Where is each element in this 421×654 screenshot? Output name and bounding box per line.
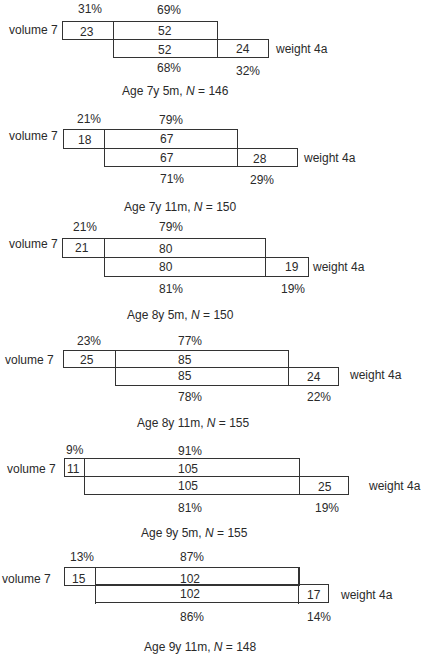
panel-age-9y5m: 9% 91% volume 7 11 105 105 25 weight 4a … xyxy=(0,425,421,530)
weight-right-value: 24 xyxy=(236,42,249,56)
label-volume: volume 7 xyxy=(7,462,56,476)
label-weight: weight 4a xyxy=(313,260,364,274)
caption: Age 7y 11m, N = 150 xyxy=(124,200,236,214)
volume-mid-value: 67 xyxy=(160,132,173,146)
bot-pct-right: 14% xyxy=(307,610,331,624)
top-pct-right: 69% xyxy=(157,3,181,17)
top-pct-left: 21% xyxy=(77,112,101,126)
volume-left-value: 15 xyxy=(72,572,85,586)
label-weight: weight 4a xyxy=(341,588,392,602)
bot-pct-left: 78% xyxy=(178,390,202,404)
divider xyxy=(298,567,299,604)
bot-pct-right: 29% xyxy=(250,173,274,187)
label-volume: volume 7 xyxy=(2,572,51,586)
weight-right-value: 19 xyxy=(285,260,298,274)
weight-mid-value: 102 xyxy=(180,587,200,601)
panel-age-7y5m: 31% 69% volume 7 23 52 52 24 weight 4a 6… xyxy=(0,0,421,100)
weight-bar xyxy=(115,367,339,386)
top-pct-left: 13% xyxy=(70,550,94,564)
top-pct-left: 21% xyxy=(73,220,97,234)
bot-pct-left: 81% xyxy=(178,501,202,515)
divider xyxy=(299,458,300,495)
weight-mid-value: 67 xyxy=(160,151,173,165)
bot-pct-right: 22% xyxy=(307,390,331,404)
top-pct-right: 79% xyxy=(159,113,183,127)
top-pct-left: 9% xyxy=(66,443,83,457)
weight-mid-value: 85 xyxy=(178,369,191,383)
label-weight: weight 4a xyxy=(276,42,327,56)
top-pct-left: 23% xyxy=(77,334,101,348)
caption: Age 9y 11m, N = 148 xyxy=(144,640,256,654)
label-weight: weight 4a xyxy=(304,151,355,165)
label-weight: weight 4a xyxy=(350,368,401,382)
divider xyxy=(237,129,238,167)
bot-pct-right: 32% xyxy=(236,64,260,78)
volume-left-value: 18 xyxy=(78,133,91,147)
bot-pct-left: 71% xyxy=(160,172,184,186)
top-pct-right: 91% xyxy=(178,444,202,458)
top-pct-right: 77% xyxy=(178,334,202,348)
bot-pct-right: 19% xyxy=(315,501,339,515)
volume-mid-value: 80 xyxy=(159,242,172,256)
volume-mid-value: 105 xyxy=(178,462,198,476)
panel-age-7y11m: 21% 79% volume 7 18 67 67 28 weight 4a 7… xyxy=(0,105,421,215)
weight-mid-value: 80 xyxy=(159,260,172,274)
weight-bar xyxy=(104,257,309,277)
bot-pct-left: 68% xyxy=(157,61,181,75)
volume-left-value: 23 xyxy=(80,25,93,39)
volume-mid-value: 102 xyxy=(180,572,200,586)
divider xyxy=(288,350,289,386)
weight-right-value: 28 xyxy=(253,152,266,166)
label-volume: volume 7 xyxy=(5,353,54,367)
volume-bar xyxy=(63,350,289,368)
weight-mid-value: 52 xyxy=(158,43,171,57)
top-pct-left: 31% xyxy=(78,2,102,16)
panel-age-9y11m: 13% 87% volume 7 15 102 102 17 weight 4a… xyxy=(0,530,421,646)
weight-right-value: 25 xyxy=(318,480,331,494)
weight-bar xyxy=(84,476,349,495)
volume-mid-value: 52 xyxy=(158,24,171,38)
label-volume: volume 7 xyxy=(9,23,58,37)
weight-right-value: 17 xyxy=(307,588,320,602)
label-volume: volume 7 xyxy=(9,237,58,251)
volume-left-value: 25 xyxy=(80,353,93,367)
label-weight: weight 4a xyxy=(369,479,420,493)
bot-pct-left: 81% xyxy=(159,282,183,296)
weight-bar xyxy=(104,148,298,167)
panel-age-8y11m: 23% 77% volume 7 25 85 85 24 weight 4a 7… xyxy=(0,320,421,425)
weight-mid-value: 105 xyxy=(178,479,198,493)
volume-mid-value: 85 xyxy=(178,353,191,367)
label-volume: volume 7 xyxy=(9,129,58,143)
divider xyxy=(265,238,266,277)
top-pct-right: 87% xyxy=(180,550,204,564)
bot-pct-left: 86% xyxy=(180,610,204,624)
bot-pct-right: 19% xyxy=(281,282,305,296)
weight-bar xyxy=(95,584,329,603)
top-pct-right: 79% xyxy=(159,220,183,234)
volume-left-value: 11 xyxy=(67,462,79,476)
caption: Age 7y 5m, N = 146 xyxy=(122,84,228,98)
volume-left-value: 21 xyxy=(75,241,88,255)
divider xyxy=(217,21,218,58)
weight-right-value: 24 xyxy=(307,370,320,384)
panel-age-8y5m: 21% 79% volume 7 21 80 80 19 weight 4a 8… xyxy=(0,215,421,320)
